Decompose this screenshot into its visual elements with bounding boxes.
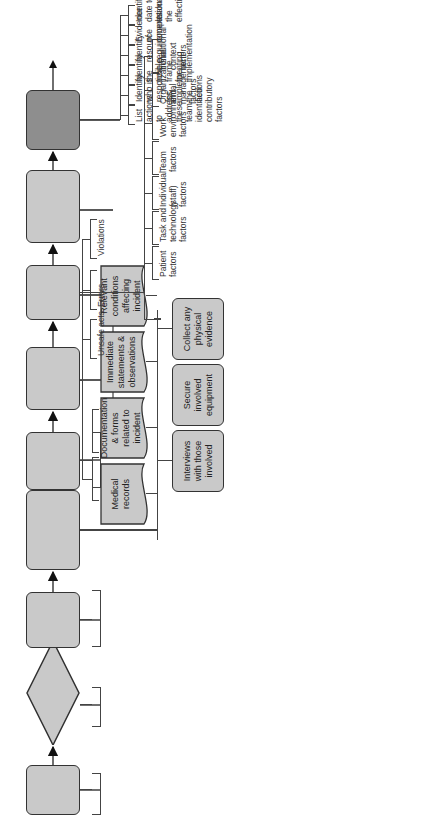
- connector: [120, 75, 128, 76]
- connector: [120, 55, 128, 56]
- cdp-type-item: Unsafe acts: [96, 304, 106, 356]
- connector: [82, 290, 90, 291]
- connector: [120, 15, 121, 120]
- connector: [82, 239, 90, 240]
- connector: [80, 292, 144, 293]
- connector: [120, 115, 128, 116]
- cdp-type-item: Violations: [96, 204, 106, 256]
- connector: [120, 35, 128, 36]
- action-plan-item: Identify date to evaluate the effectiven…: [134, 0, 184, 22]
- connector: [80, 119, 120, 120]
- connector: [120, 95, 128, 96]
- connector: [144, 193, 152, 194]
- connector: [144, 228, 152, 229]
- connector: [82, 239, 83, 381]
- branch-layer: Unsafe actsErrorsViolationsPatient facto…: [0, 0, 425, 825]
- cdp-type-item: Errors: [96, 255, 106, 307]
- connector: [82, 339, 90, 340]
- connector: [144, 123, 152, 124]
- connector: [144, 263, 152, 264]
- rca-flowchart: Medical recordsDocumentation & forms rel…: [0, 0, 425, 825]
- connector: [120, 15, 128, 16]
- connector: [144, 158, 152, 159]
